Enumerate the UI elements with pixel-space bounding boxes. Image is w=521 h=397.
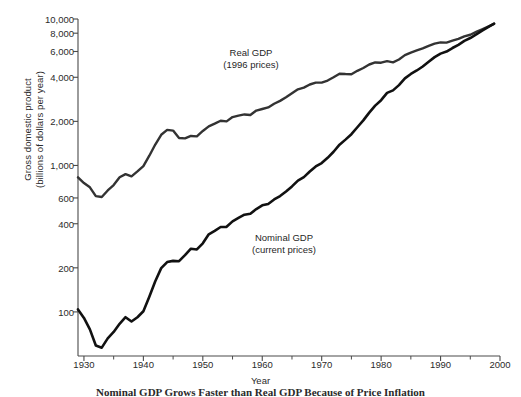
series-line-nominal-gdp [78, 24, 494, 348]
gdp-chart-figure: Gross domestic product (billions of doll… [0, 0, 521, 397]
series-line-real-gdp [78, 24, 494, 197]
plot-area [0, 0, 521, 397]
